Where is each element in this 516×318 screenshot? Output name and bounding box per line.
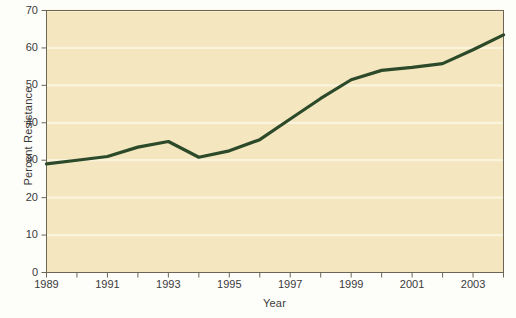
y-axis-ticks	[42, 11, 47, 273]
x-tick-label: 1999	[331, 279, 371, 290]
x-axis-title: Year	[46, 297, 503, 309]
y-axis-title: Percent Resistance	[22, 46, 34, 226]
x-tick-label: 1997	[270, 279, 310, 290]
y-tick-label: 0	[12, 267, 38, 278]
chart-figure: 010203040506070 198919911993199519971999…	[0, 0, 516, 318]
line-chart-plot	[0, 0, 516, 318]
x-axis-ticks	[47, 273, 504, 278]
y-tick-label: 70	[12, 5, 38, 16]
x-tick-label: 1995	[209, 279, 249, 290]
x-tick-label: 1989	[27, 279, 67, 290]
x-tick-label: 2001	[392, 279, 432, 290]
plot-area-background	[47, 11, 504, 273]
x-tick-label: 1993	[148, 279, 188, 290]
x-tick-label: 2003	[453, 279, 493, 290]
y-tick-label: 10	[12, 229, 38, 240]
x-tick-label: 1991	[87, 279, 127, 290]
